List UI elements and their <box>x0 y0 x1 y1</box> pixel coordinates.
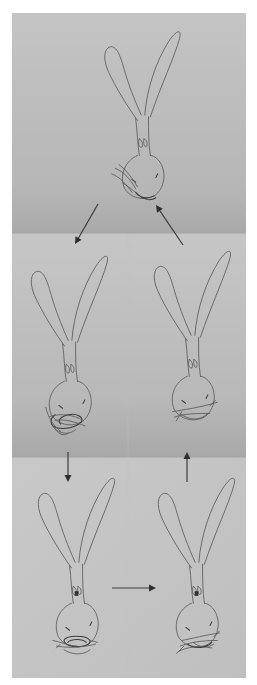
paper-section-top <box>12 13 246 233</box>
paper-section-middle <box>12 233 246 457</box>
rabbit-eating-cycle-figure <box>0 0 257 685</box>
neck-dark-mark <box>75 591 79 596</box>
paper <box>12 13 246 678</box>
paper-section-bottom <box>12 457 246 678</box>
neck-dark-mark <box>195 591 199 596</box>
